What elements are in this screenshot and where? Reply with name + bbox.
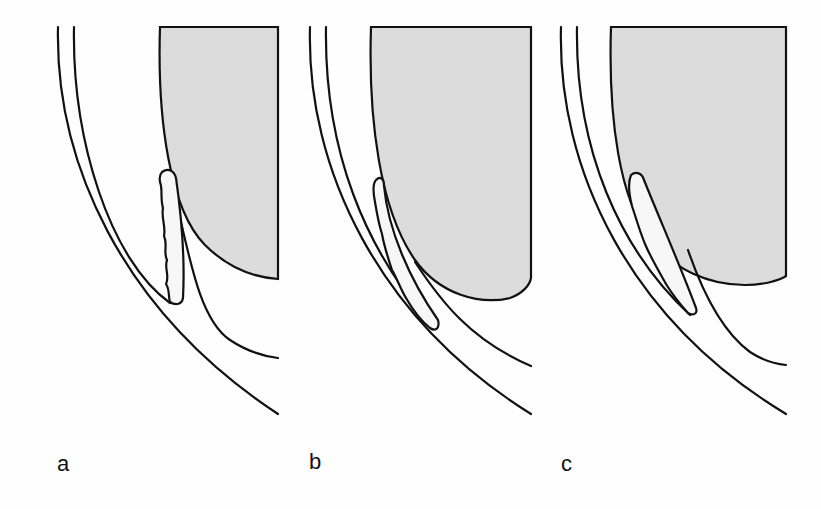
panel-label-a: a [57, 453, 69, 475]
lens-shape [611, 27, 786, 285]
inner-cornea-line [74, 27, 170, 303]
panel-b [310, 27, 531, 414]
panel-label-b: b [309, 451, 321, 473]
diagram-svg [0, 0, 821, 509]
panel-c [561, 27, 786, 414]
panel-a [58, 27, 278, 414]
figure-canvas: a b c [0, 0, 821, 509]
panel-label-c: c [561, 453, 572, 475]
